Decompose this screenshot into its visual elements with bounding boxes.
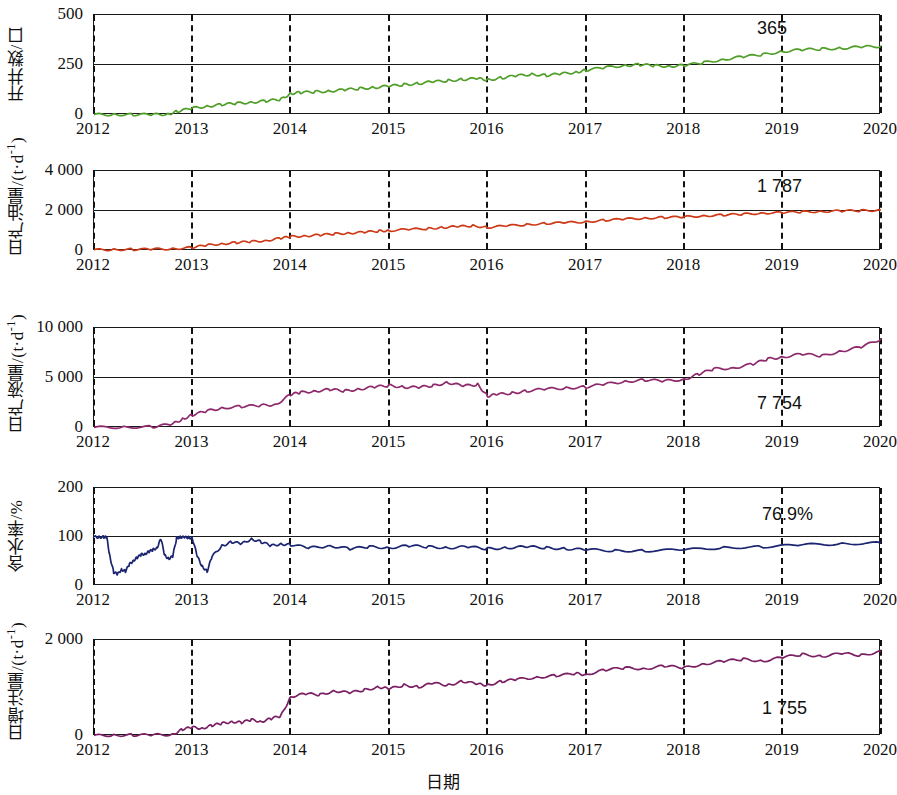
x-tick-liquid-2013: 2013	[174, 432, 208, 452]
x-tick-injection-2013: 2013	[174, 740, 208, 760]
series-line-wells-0	[94, 46, 881, 116]
x-tick-injection-2020: 2020	[863, 740, 897, 760]
x-tick-injection-2019: 2019	[765, 740, 799, 760]
x-tick-wells-2018: 2018	[666, 119, 700, 139]
x-tick-wells-2019: 2019	[765, 119, 799, 139]
annotation-oil: 1 787	[757, 176, 802, 197]
x-tick-liquid-2015: 2015	[371, 432, 405, 452]
x-tick-wells-2013: 2013	[174, 119, 208, 139]
x-tick-wells-2016: 2016	[470, 119, 504, 139]
y-axis-label-watercut: 含水率/%	[4, 481, 29, 591]
x-tick-oil-2020: 2020	[863, 255, 897, 275]
x-tick-watercut-2020: 2020	[863, 590, 897, 610]
series-line-watercut-0	[94, 536, 881, 575]
series-svg-injection	[94, 640, 881, 736]
x-tick-injection-2015: 2015	[371, 740, 405, 760]
annotation-watercut: 76.9%	[762, 504, 813, 525]
series-line-oil-0	[94, 210, 881, 251]
x-tick-oil-2015: 2015	[371, 255, 405, 275]
series-line-injection-0	[94, 651, 881, 737]
x-tick-injection-2018: 2018	[666, 740, 700, 760]
x-tick-watercut-2019: 2019	[765, 590, 799, 610]
x-tick-watercut-2017: 2017	[568, 590, 602, 610]
x-tick-liquid-2018: 2018	[666, 432, 700, 452]
x-tick-watercut-2012: 2012	[76, 590, 110, 610]
x-tick-oil-2016: 2016	[470, 255, 504, 275]
annotation-liquid: 7 754	[757, 393, 802, 414]
x-tick-liquid-2017: 2017	[568, 432, 602, 452]
annotation-wells: 365	[757, 18, 787, 39]
x-tick-liquid-2014: 2014	[273, 432, 307, 452]
x-tick-liquid-2016: 2016	[470, 432, 504, 452]
x-tick-liquid-2019: 2019	[765, 432, 799, 452]
x-tick-injection-2017: 2017	[568, 740, 602, 760]
x-tick-oil-2018: 2018	[666, 255, 700, 275]
x-tick-wells-2017: 2017	[568, 119, 602, 139]
x-tick-watercut-2013: 2013	[174, 590, 208, 610]
y-axis-label-wells: 开井数/口	[4, 8, 29, 120]
annotation-injection: 1 755	[762, 698, 807, 719]
x-tick-oil-2019: 2019	[765, 255, 799, 275]
series-line-liquid-0	[94, 339, 881, 428]
x-tick-liquid-2012: 2012	[76, 432, 110, 452]
x-tick-oil-2017: 2017	[568, 255, 602, 275]
series-svg-watercut	[94, 488, 881, 586]
x-tick-wells-2015: 2015	[371, 119, 405, 139]
x-tick-watercut-2014: 2014	[273, 590, 307, 610]
y-axis-label-oil: 日产油量/(t·d-1)	[4, 164, 30, 256]
x-tick-wells-2014: 2014	[273, 119, 307, 139]
x-tick-liquid-2020: 2020	[863, 432, 897, 452]
x-tick-oil-2013: 2013	[174, 255, 208, 275]
x-tick-injection-2012: 2012	[76, 740, 110, 760]
x-tick-oil-2012: 2012	[76, 255, 110, 275]
x-tick-oil-2014: 2014	[273, 255, 307, 275]
x-tick-wells-2012: 2012	[76, 119, 110, 139]
x-tick-watercut-2018: 2018	[666, 590, 700, 610]
plot-area-watercut	[93, 487, 880, 585]
y-axis-label-liquid: 日产液量/(t·d-1)	[4, 321, 30, 433]
y-axis-label-injection: 日增注量/(t·d-1)	[4, 633, 30, 741]
x-tick-watercut-2015: 2015	[371, 590, 405, 610]
x-tick-injection-2014: 2014	[273, 740, 307, 760]
plot-area-injection	[93, 639, 880, 735]
x-axis-title: 日期	[0, 768, 885, 793]
x-tick-injection-2016: 2016	[470, 740, 504, 760]
x-tick-watercut-2016: 2016	[470, 590, 504, 610]
x-tick-wells-2020: 2020	[863, 119, 897, 139]
